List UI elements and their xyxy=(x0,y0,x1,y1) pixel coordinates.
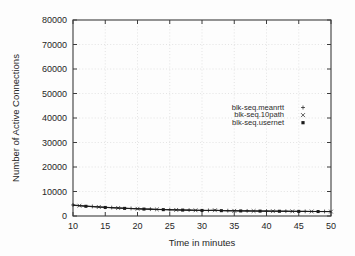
legend-marker xyxy=(301,113,305,117)
x-tick-label: 20 xyxy=(132,221,142,231)
gridlines xyxy=(73,20,331,216)
data-series-layer xyxy=(71,203,333,213)
legend-label: blk-seq.usernet xyxy=(232,118,285,127)
x-tick-label: 25 xyxy=(165,221,175,231)
plot-frame xyxy=(73,20,331,216)
tickmarks xyxy=(73,20,331,216)
y-tick-label: 70000 xyxy=(42,40,67,50)
chart-figure: 101520253035404550 010000200003000040000… xyxy=(0,0,355,256)
y-tick-label: 20000 xyxy=(42,162,67,172)
chart-legend: blk-seq.meanrttblk-seq.10pathblk-seq.use… xyxy=(232,103,305,127)
y-tick-label: 0 xyxy=(62,211,67,221)
x-tick-label: 45 xyxy=(294,221,304,231)
y-axis-title: Number of Active Connections xyxy=(10,54,21,182)
legend-marker xyxy=(301,121,304,124)
x-tick-label: 10 xyxy=(68,221,78,231)
y-tick-label: 30000 xyxy=(42,138,67,148)
y-tick-label: 80000 xyxy=(42,15,67,25)
legend-marker xyxy=(301,106,305,110)
x-tick-label: 15 xyxy=(100,221,110,231)
connections-line-chart: 101520253035404550 010000200003000040000… xyxy=(0,0,355,256)
x-tick-label: 50 xyxy=(326,221,336,231)
x-axis-title: Time in minutes xyxy=(169,237,236,248)
y-tick-label: 60000 xyxy=(42,64,67,74)
x-tick-label: 35 xyxy=(229,221,239,231)
y-axis-tick-labels: 0100002000030000400005000060000700008000… xyxy=(42,15,67,221)
y-tick-label: 40000 xyxy=(42,113,67,123)
x-axis-tick-labels: 101520253035404550 xyxy=(68,221,336,231)
y-tick-label: 10000 xyxy=(42,187,67,197)
y-tick-label: 50000 xyxy=(42,89,67,99)
x-tick-label: 30 xyxy=(197,221,207,231)
x-tick-label: 40 xyxy=(261,221,271,231)
